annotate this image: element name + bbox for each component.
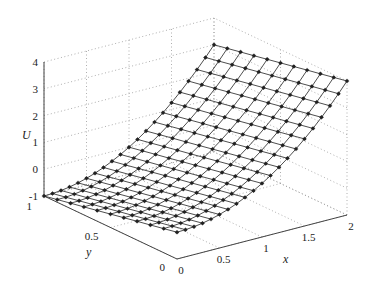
data-point-marker xyxy=(165,217,169,221)
data-point-marker xyxy=(107,196,111,200)
data-point-marker xyxy=(217,212,221,216)
x-tick-label: 1 xyxy=(263,242,269,254)
tick-labels: -10123400.5100.511.52 xyxy=(27,56,354,276)
data-point-marker xyxy=(170,224,174,228)
grid-line xyxy=(214,45,347,108)
data-point-marker xyxy=(59,188,63,192)
surface-mesh xyxy=(44,45,347,232)
data-point-marker xyxy=(77,199,81,203)
z-tick-label: 0 xyxy=(33,163,39,175)
data-point-marker xyxy=(130,213,134,217)
data-point-marker xyxy=(192,225,196,229)
x-tick-label: 2 xyxy=(348,220,354,232)
z-axis-label: U xyxy=(22,128,32,142)
z-tick-label: 4 xyxy=(33,56,39,68)
data-point-marker xyxy=(117,209,121,213)
data-point-marker xyxy=(111,183,115,187)
data-point-marker xyxy=(76,181,80,185)
y-tick-label: 0.5 xyxy=(85,230,99,242)
plot-canvas: -10123400.5100.511.52 U y x xyxy=(0,0,372,290)
surface-plot: -10123400.5100.511.52 U y x xyxy=(0,0,372,290)
x-axis-label: x xyxy=(282,252,289,266)
y-axis-label: y xyxy=(85,245,92,259)
grid-line xyxy=(172,163,305,226)
x-tick-label: 1.5 xyxy=(302,231,316,243)
x-tick-label: 0 xyxy=(178,264,184,276)
grid-line xyxy=(44,72,214,116)
data-point-marker xyxy=(156,202,160,206)
data-point-marker xyxy=(174,214,178,218)
data-point-marker xyxy=(143,217,147,221)
data-point-marker xyxy=(147,207,151,211)
data-point-marker xyxy=(81,188,85,192)
data-point-marker xyxy=(84,176,88,180)
data-point-marker xyxy=(95,208,99,212)
data-point-marker xyxy=(68,201,72,205)
data-point-marker xyxy=(85,196,89,200)
data-point-marker xyxy=(169,206,173,210)
data-point-marker xyxy=(42,194,46,198)
data-point-marker xyxy=(157,220,161,224)
data-point-marker xyxy=(64,195,68,199)
data-point-marker xyxy=(148,223,152,227)
data-point-marker xyxy=(209,217,213,221)
data-point-marker xyxy=(98,180,102,184)
data-point-marker xyxy=(72,192,76,196)
data-point-marker xyxy=(50,191,54,195)
data-point-marker xyxy=(104,206,108,210)
data-point-marker xyxy=(134,203,138,207)
data-point-marker xyxy=(112,203,116,207)
z-tick-label: 3 xyxy=(33,83,39,95)
data-point-marker xyxy=(116,192,120,196)
data-point-marker xyxy=(138,191,142,195)
data-point-marker xyxy=(90,202,94,206)
data-point-marker xyxy=(108,212,112,216)
data-point-marker xyxy=(67,185,71,189)
data-point-marker xyxy=(122,216,126,220)
data-point-marker xyxy=(125,206,129,210)
data-point-marker xyxy=(124,187,128,191)
data-point-marker xyxy=(151,194,155,198)
x-tick-label: 0.5 xyxy=(217,253,231,265)
data-point-marker xyxy=(164,198,168,202)
data-point-marker xyxy=(200,221,204,225)
data-point-marker xyxy=(179,221,183,225)
data-point-marker xyxy=(182,210,186,214)
data-point-marker xyxy=(175,230,179,234)
data-point-marker xyxy=(99,199,103,203)
data-point-marker xyxy=(102,188,106,192)
data-point-marker xyxy=(139,210,143,214)
data-point-marker xyxy=(162,226,166,230)
z-tick-label: 1 xyxy=(33,136,39,148)
data-point-marker xyxy=(196,213,200,217)
data-point-marker xyxy=(94,192,98,196)
data-point-marker xyxy=(204,209,208,213)
data-point-marker xyxy=(191,205,195,209)
data-point-marker xyxy=(135,219,139,223)
data-point-marker xyxy=(82,205,86,209)
y-tick-label: 0 xyxy=(160,261,166,273)
data-point-marker xyxy=(177,201,181,205)
data-point-marker xyxy=(129,195,133,199)
data-point-marker xyxy=(187,217,191,221)
z-tick-label: 2 xyxy=(33,110,39,122)
data-point-marker xyxy=(160,210,164,214)
data-point-marker xyxy=(142,199,146,203)
y-tick-label: 1 xyxy=(27,200,33,212)
